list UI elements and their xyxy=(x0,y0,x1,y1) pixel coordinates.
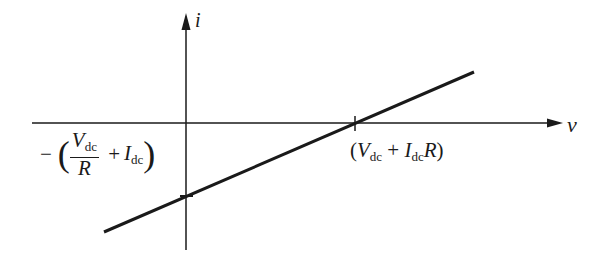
i-term: Idc xyxy=(124,141,143,165)
paren-close: ) xyxy=(437,138,444,162)
fraction-denominator: R xyxy=(70,158,99,178)
paren-open: ( xyxy=(350,138,357,162)
x-axis-label: v xyxy=(567,112,577,138)
i-subscript: dc xyxy=(131,152,143,167)
r-symbol: R xyxy=(424,138,437,162)
iv-diagram xyxy=(0,0,599,257)
plus-sign: + xyxy=(387,138,399,162)
v-symbol: V xyxy=(357,138,370,162)
i-subscript: dc xyxy=(411,149,423,164)
paren-close: ) xyxy=(143,134,155,174)
v-subscript: dc xyxy=(85,139,97,154)
y-axis-label: i xyxy=(195,9,201,32)
x-intercept-label: (Vdc + IdcR) xyxy=(350,138,444,165)
plus-sign: + xyxy=(108,142,120,166)
v-symbol: V xyxy=(72,128,85,152)
x-axis-arrow-icon xyxy=(547,119,563,128)
y-axis-arrow-icon xyxy=(182,13,191,30)
i-symbol: I xyxy=(124,141,131,165)
y-intercept-label: −(VdcR +Idc) xyxy=(40,130,155,178)
fraction-numerator: Vdc xyxy=(70,130,99,158)
minus-sign: − xyxy=(40,142,52,166)
paren-open: ( xyxy=(58,134,70,174)
v-subscript: dc xyxy=(370,149,382,164)
fraction: VdcR xyxy=(70,130,99,178)
